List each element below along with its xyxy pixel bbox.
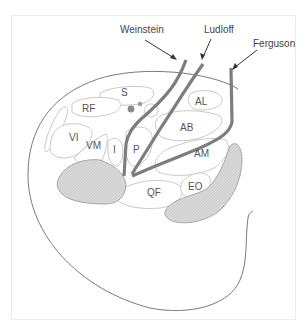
- vessel-large: [128, 106, 135, 113]
- femur-shape: [57, 160, 126, 204]
- label-ferguson: Ferguson: [253, 38, 295, 49]
- label-QF: QF: [147, 187, 161, 198]
- label-AM: AM: [194, 148, 209, 159]
- label-weinstein: Weinstein: [120, 24, 164, 35]
- label-ludloff: Ludloff: [204, 24, 234, 35]
- muscle-rectus-femoris: [72, 97, 120, 116]
- ludloff-arrow: [200, 39, 211, 60]
- label-RF: RF: [82, 103, 95, 114]
- muscle-adductor-magnus: [155, 138, 228, 175]
- label-VI: VI: [69, 132, 78, 143]
- label-AL: AL: [195, 96, 208, 107]
- label-P: P: [133, 144, 140, 155]
- label-EO: EO: [188, 181, 203, 192]
- body-outline-notch: [233, 86, 238, 89]
- ferguson-arrow: [232, 50, 257, 70]
- label-I: I: [113, 144, 116, 155]
- label-VM: VM: [86, 140, 101, 151]
- label-AB: AB: [180, 122, 194, 133]
- vessel-small: [138, 102, 142, 106]
- label-S: S: [121, 87, 128, 98]
- weinstein-arrow: [145, 40, 177, 60]
- cross-section-diagram: Weinstein Ludloff Ferguson S RF VI VM I …: [0, 0, 307, 329]
